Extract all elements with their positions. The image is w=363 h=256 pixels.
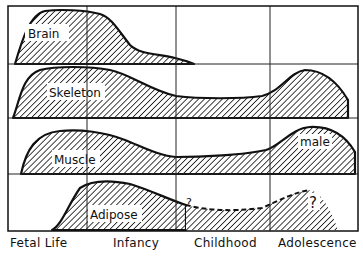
period-label-adolescence: Adolescence <box>278 236 357 250</box>
male-annotation: male <box>300 135 330 149</box>
adipose-label: Adipose <box>90 208 138 222</box>
muscle-label: Muscle <box>54 153 96 167</box>
brain-label: Brain <box>28 27 59 41</box>
adipose-row: Adipose ? ? <box>52 181 338 230</box>
uncertain-mark-adolescence: ? <box>309 194 317 212</box>
skeleton-row: Skeleton <box>13 67 348 118</box>
brain-row: Brain <box>15 10 194 64</box>
skeleton-label: Skeleton <box>49 86 101 100</box>
period-label-childhood: Childhood <box>194 236 257 250</box>
uncertain-mark-childhood: ? <box>186 196 192 209</box>
period-label-fetal-life: Fetal Life <box>10 236 67 250</box>
period-label-infancy: Infancy <box>113 236 159 250</box>
muscle-row: Muscle male <box>21 127 355 174</box>
growth-diagram: Brain Skeleton Muscle male Adipose ? ? <box>0 0 363 256</box>
